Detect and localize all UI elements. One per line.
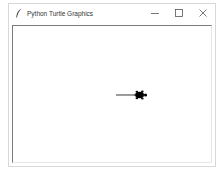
feather-icon: [15, 8, 23, 18]
window-title: Python Turtle Graphics: [27, 10, 93, 17]
turtle-window: Python Turtle Graphics: [8, 3, 216, 167]
turtle-icon: [133, 90, 147, 99]
close-icon: [199, 9, 207, 17]
maximize-button[interactable]: [167, 4, 191, 22]
window-controls: [143, 4, 215, 22]
minimize-button[interactable]: [143, 4, 167, 22]
minimize-icon: [151, 9, 159, 17]
drawing-surface: [13, 26, 211, 162]
close-button[interactable]: [191, 4, 215, 22]
title-bar[interactable]: Python Turtle Graphics: [9, 4, 215, 22]
turtle-canvas[interactable]: [12, 25, 212, 163]
maximize-icon: [175, 9, 183, 17]
